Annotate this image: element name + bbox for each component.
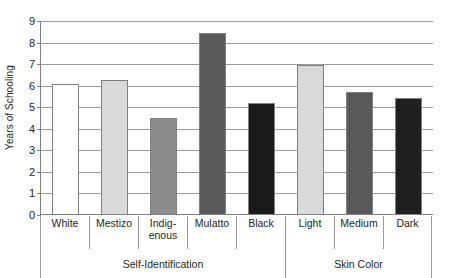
category-label-row: WhiteMestizoIndig- enousMulattoBlackLigh…: [40, 216, 433, 249]
category-axis: WhiteMestizoIndig- enousMulattoBlackLigh…: [40, 216, 433, 278]
bar: [101, 80, 128, 215]
y-axis-tick-label: 5: [29, 102, 35, 113]
category-label-cell: Black: [236, 216, 285, 249]
y-axis-tick-label: 7: [29, 59, 35, 70]
group-label-cell: Self-Identification: [40, 249, 285, 278]
y-axis-tick-label: 4: [29, 123, 35, 134]
category-label: Dark: [396, 218, 418, 230]
y-axis-tick-label: 3: [29, 145, 35, 156]
group-label-cell: Skin Color: [285, 249, 432, 278]
bar: [150, 118, 177, 215]
bars-layer: [41, 21, 433, 215]
category-label: Indig- enous: [149, 218, 178, 241]
category-label-cell: Mestizo: [89, 216, 138, 249]
bar: [52, 84, 79, 215]
bar: [395, 98, 422, 215]
category-label-cell: White: [40, 216, 89, 249]
bar: [248, 103, 275, 215]
category-label: Black: [248, 218, 274, 230]
bar: [297, 65, 324, 215]
bar: [199, 33, 226, 215]
x-axis-baseline: [41, 214, 433, 215]
y-axis-tick-label: 9: [29, 16, 35, 27]
category-label-cell: Indig- enous: [138, 216, 187, 249]
category-label: White: [52, 218, 79, 230]
category-label-cell: Mulatto: [187, 216, 236, 249]
group-label: Skin Color: [334, 258, 382, 270]
bar-chart: Years of Schooling 0123456789 WhiteMesti…: [0, 0, 450, 278]
y-axis-tick-label: 6: [29, 80, 35, 91]
category-label: Light: [299, 218, 322, 230]
category-label-cell: Medium: [334, 216, 383, 249]
y-axis-title-text: Years of Schooling: [4, 65, 15, 150]
y-axis-tick-label: 1: [29, 188, 35, 199]
category-label: Mulatto: [195, 218, 229, 230]
y-axis-tick-label: 0: [29, 210, 35, 221]
category-label: Medium: [340, 218, 377, 230]
group-label-row: Self-IdentificationSkin Color: [40, 249, 433, 278]
bar: [346, 92, 373, 215]
plot-area: [40, 21, 433, 215]
category-label-cell: Dark: [383, 216, 432, 249]
category-label: Mestizo: [96, 218, 132, 230]
y-axis-tick-labels: 0123456789: [18, 14, 38, 222]
y-axis-tick-label: 8: [29, 37, 35, 48]
group-label: Self-Identification: [123, 258, 204, 270]
y-axis-title: Years of Schooling: [0, 0, 18, 215]
y-axis-tick-label: 2: [29, 166, 35, 177]
category-label-cell: Light: [285, 216, 334, 249]
